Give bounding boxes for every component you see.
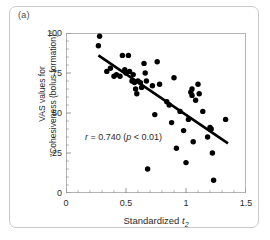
data-point: [196, 91, 201, 96]
correlation-equals: =: [88, 132, 98, 142]
panel-label: (a): [18, 10, 30, 20]
regression-line: [98, 55, 228, 143]
data-point: [211, 177, 216, 182]
y-tick-label: 100: [32, 29, 62, 38]
data-point: [97, 33, 102, 38]
x-axis-label: Standardized t2: [66, 215, 246, 228]
correlation-value: 0.740: [98, 132, 121, 142]
data-point: [150, 83, 155, 88]
data-point: [126, 53, 131, 58]
data-point: [157, 81, 162, 86]
x-tick-label: 1.5: [231, 199, 261, 208]
x-axis-label-text: Standardized: [123, 215, 182, 226]
x-tick-label: 0: [51, 199, 81, 208]
y-tick-label: 75: [32, 69, 62, 78]
data-point: [152, 112, 157, 117]
data-point: [134, 91, 139, 96]
data-point: [195, 81, 200, 86]
y-tick-label: 25: [32, 149, 62, 158]
data-point: [189, 86, 194, 91]
data-point: [189, 93, 194, 98]
data-point: [108, 65, 113, 70]
correlation-annotation: r = 0.740 (p < 0.01): [85, 132, 162, 142]
data-point: [145, 166, 150, 171]
data-point: [133, 86, 138, 91]
p-value: < 0.01: [134, 132, 159, 142]
data-point: [130, 72, 135, 77]
y-tick-label: 0: [32, 189, 62, 198]
data-point: [139, 85, 144, 90]
data-point: [169, 120, 174, 125]
y-tick-label: 50: [32, 109, 62, 118]
data-point: [144, 78, 149, 83]
data-point: [154, 59, 159, 64]
scatter-plot-canvas: [66, 33, 246, 193]
x-axis-label-subscript: 2: [185, 221, 189, 228]
annotation-paren-close: ): [159, 132, 162, 142]
data-points-group: [96, 33, 229, 182]
data-point: [183, 160, 188, 165]
data-point: [223, 117, 228, 122]
x-tick-label: 0.5: [111, 199, 141, 208]
data-point: [171, 75, 176, 80]
data-point: [166, 102, 171, 107]
data-point: [177, 109, 182, 114]
data-point: [138, 80, 143, 85]
data-point: [210, 150, 215, 155]
trendline-group: [98, 55, 228, 143]
data-point: [200, 109, 205, 114]
data-point: [174, 145, 179, 150]
data-point: [193, 97, 198, 102]
figure-panel: (a) VAS values for"Cohesiveness (bolus f…: [0, 0, 270, 240]
data-point: [117, 73, 122, 78]
data-point: [181, 128, 186, 133]
data-point: [205, 134, 210, 139]
data-point: [186, 117, 191, 122]
data-point: [208, 126, 213, 131]
y-axis-label-line2: "Cohesiveness (bolus formation)": [48, 31, 58, 157]
data-point: [96, 43, 101, 48]
x-tick-label: 1: [171, 199, 201, 208]
data-point: [120, 53, 125, 58]
data-point: [190, 139, 195, 144]
data-point: [142, 70, 147, 75]
data-point: [141, 61, 146, 66]
